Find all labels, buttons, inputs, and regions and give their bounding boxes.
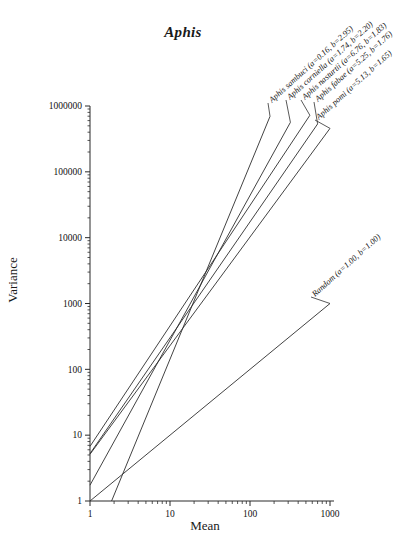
series-line	[112, 116, 270, 501]
series-leader-line	[311, 297, 330, 304]
series-line	[90, 115, 310, 446]
x-tick-label: 1	[88, 509, 93, 519]
x-tick-label: 1000	[321, 509, 340, 519]
series-line	[90, 124, 318, 454]
x-tick-label: 100	[243, 509, 258, 519]
plot-canvas: 1101001000100001000001000000 1101001000 …	[0, 0, 414, 541]
y-tick-label: 100	[68, 365, 83, 375]
series-labels-group: Aphis sambuci (a=0.16, b=2.95)Aphis corn…	[267, 20, 395, 300]
series-leader-line	[301, 100, 310, 115]
x-axis: 1101001000	[88, 501, 340, 519]
series-leader-lines-group	[268, 100, 330, 304]
y-axis: 1101001000100001000001000000	[49, 101, 90, 506]
y-tick-label: 10000	[58, 233, 82, 243]
figure-aphis-taylor-power-law: Aphis Mean Variance 11010010001000010000…	[0, 0, 414, 541]
y-tick-label: 1000000	[49, 101, 83, 111]
x-axis-tick-labels: 1101001000	[88, 509, 340, 519]
series-line	[90, 304, 330, 502]
y-tick-label: 100000	[54, 167, 83, 177]
series-leader-line	[268, 103, 270, 116]
series-lines-group	[90, 115, 330, 501]
y-tick-label: 1	[77, 496, 82, 506]
series-line	[90, 122, 290, 485]
series-label: Random (a=1.00, b=1.00)	[310, 232, 383, 299]
series-line	[90, 128, 330, 454]
series-leader-line	[286, 100, 290, 122]
y-tick-label: 1000	[63, 299, 82, 309]
y-axis-tick-labels: 1101001000100001000001000000	[49, 101, 83, 506]
y-axis-ticks	[85, 106, 90, 501]
x-tick-label: 10	[165, 509, 175, 519]
y-tick-label: 10	[73, 430, 83, 440]
x-axis-ticks	[90, 501, 330, 506]
